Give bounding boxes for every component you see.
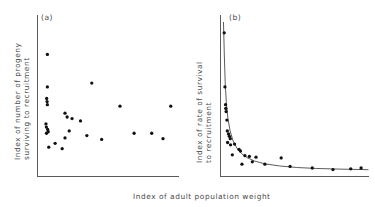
scatter-point xyxy=(226,141,229,144)
panel-b: (b) Index of rate of survival to recruit… xyxy=(195,13,369,177)
scatter-point xyxy=(46,103,49,106)
scatter-point xyxy=(223,85,226,88)
scatter-point xyxy=(45,100,48,103)
scatter-point xyxy=(169,105,172,108)
scatter-point xyxy=(223,31,226,34)
scatter-point xyxy=(118,105,121,108)
scatter-point xyxy=(231,153,234,156)
scatter-point xyxy=(224,103,227,106)
panel-b-axes xyxy=(221,15,369,177)
scatter-point xyxy=(79,119,82,122)
panel-a: (a) Index of number of progeny surviving… xyxy=(13,13,179,177)
shared-x-axis-label: Index of adult population weight xyxy=(133,192,271,201)
scatter-point xyxy=(240,162,243,165)
scatter-point xyxy=(251,160,254,163)
scatter-point xyxy=(63,136,66,139)
scatter-point xyxy=(288,165,291,168)
scatter-point xyxy=(349,167,352,170)
panel-b-data-points xyxy=(223,31,363,171)
panel-b-fit-curve xyxy=(223,22,368,170)
scatter-point xyxy=(233,142,236,145)
scatter-point xyxy=(53,142,56,145)
scatter-point xyxy=(46,85,49,88)
scatter-point xyxy=(239,149,242,152)
two-panel-scatter-figure: (a) Index of number of progeny surviving… xyxy=(0,0,375,207)
scatter-point xyxy=(359,166,362,169)
scatter-point xyxy=(161,137,164,140)
scatter-point xyxy=(243,154,246,157)
scatter-point xyxy=(224,110,227,113)
scatter-point xyxy=(65,115,68,118)
scatter-point xyxy=(100,138,103,141)
scatter-point xyxy=(63,112,66,115)
figure-container: (a) Index of number of progeny surviving… xyxy=(0,0,375,207)
panel-b-ylabel-line1: Index of rate of survival xyxy=(195,61,204,163)
panel-a-axes xyxy=(38,15,179,177)
scatter-point xyxy=(229,137,232,140)
panel-b-ylabel-line2: to recruitment xyxy=(204,102,213,163)
scatter-point xyxy=(47,146,50,149)
scatter-point xyxy=(68,129,71,132)
panel-a-data-points xyxy=(44,53,172,151)
panel-b-label: (b) xyxy=(229,13,241,22)
scatter-point xyxy=(224,107,227,110)
panel-a-label: (a) xyxy=(41,13,53,22)
panel-a-ylabel-line1: Index of number of progeny xyxy=(13,42,22,160)
scatter-point xyxy=(46,53,49,56)
scatter-point xyxy=(70,117,73,120)
scatter-point xyxy=(132,132,135,135)
scatter-point xyxy=(85,134,88,137)
scatter-point xyxy=(229,143,232,146)
scatter-point xyxy=(248,155,251,158)
scatter-point xyxy=(280,156,283,159)
scatter-point xyxy=(311,166,314,169)
scatter-point xyxy=(331,168,334,171)
scatter-point xyxy=(90,81,93,84)
scatter-point xyxy=(61,147,64,150)
scatter-point xyxy=(45,97,48,100)
scatter-point xyxy=(44,122,47,125)
scatter-point xyxy=(254,156,257,159)
scatter-point xyxy=(226,129,229,132)
panel-a-ylabel-line2: surviving to recruitment xyxy=(22,57,31,160)
scatter-point xyxy=(45,132,48,135)
scatter-point xyxy=(225,118,228,121)
scatter-point xyxy=(150,132,153,135)
scatter-point xyxy=(263,162,266,165)
